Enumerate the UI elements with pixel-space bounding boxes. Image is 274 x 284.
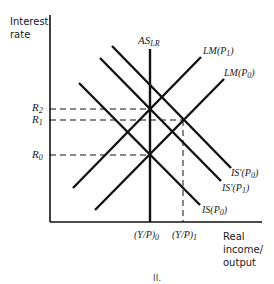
is-prime-p1-label: IS′(P1) xyxy=(222,183,249,195)
as-lr-label: ASLR xyxy=(138,35,160,48)
is-p0-label-close: ) xyxy=(224,204,227,215)
r0-label-sub: 0 xyxy=(39,153,43,162)
y-axis-label: Interest rate xyxy=(10,15,49,41)
r1-label-sub: 1 xyxy=(39,118,43,127)
is-prime-p0-label-text: IS′(P xyxy=(231,167,251,178)
r0-label-text: R xyxy=(32,148,39,160)
is-p0-label-text: IS(P xyxy=(202,204,220,215)
y0-label: (Y/P)0 xyxy=(134,230,159,242)
is-prime-p0-label-close: ) xyxy=(255,167,258,178)
lm-p1-label: LM(P1) xyxy=(203,46,234,58)
lm-p0-label-text: LM(P xyxy=(224,67,247,78)
lm-p0-label: LM(P0) xyxy=(224,68,255,80)
figure-caption: II. xyxy=(153,274,161,283)
x-axis-label: Real income/ output xyxy=(223,230,263,269)
r2-label-text: R xyxy=(32,101,39,113)
lm-p1-label-close: ) xyxy=(230,45,233,56)
as-lr-label-text: AS xyxy=(138,34,150,46)
is-prime-p1-label-close: ) xyxy=(246,182,249,193)
y-axis-label-line2: rate xyxy=(10,28,49,41)
is-p0-curve xyxy=(79,83,200,205)
y1-label-sub: 1 xyxy=(193,233,197,242)
is-prime-p0-curve xyxy=(112,46,231,168)
islm-diagram: Interest rate Real income/ output R2 R1 … xyxy=(0,0,274,284)
y-axis-label-line1: Interest xyxy=(10,15,49,28)
lm-p0-label-close: ) xyxy=(251,67,254,78)
is-prime-p1-curve xyxy=(100,58,221,181)
is-prime-p1-label-text: IS′(P xyxy=(222,182,242,193)
x-axis-label-line2: income/ xyxy=(223,243,263,256)
as-lr-label-sub: LR xyxy=(150,39,159,48)
x-axis-label-line3: output xyxy=(223,256,263,269)
r0-label: R0 xyxy=(32,149,43,162)
y1-label: (Y/P)1 xyxy=(172,230,197,242)
r1-label-text: R xyxy=(32,113,39,125)
is-p0-label: IS(P0) xyxy=(202,205,227,217)
lm-p1-label-text: LM(P xyxy=(203,45,226,56)
y0-label-sub: 0 xyxy=(155,233,159,242)
is-prime-p0-label: IS′(P0) xyxy=(231,168,258,180)
y1-label-text: (Y/P) xyxy=(172,229,193,240)
x-axis-label-line1: Real xyxy=(223,230,263,243)
r1-label: R1 xyxy=(32,114,43,127)
y0-label-text: (Y/P) xyxy=(134,229,155,240)
